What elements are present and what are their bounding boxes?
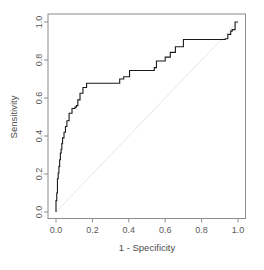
y-tick-label: 0.2 — [34, 168, 44, 181]
x-tick-label: 0.6 — [159, 225, 172, 235]
x-tick-label: 0.4 — [123, 225, 136, 235]
roc-curve-figure: 0.00.20.40.60.81.00.00.20.40.60.81.01 - … — [0, 0, 264, 270]
y-tick-label: 0.4 — [34, 130, 44, 143]
y-tick-label: 0.0 — [34, 206, 44, 219]
x-tick-label: 0.2 — [86, 225, 99, 235]
x-tick-label: 0.0 — [50, 225, 63, 235]
x-tick-label: 0.8 — [195, 225, 208, 235]
y-axis-title: Sensitivity — [8, 95, 19, 138]
y-tick-label: 0.8 — [34, 54, 44, 67]
y-tick-label: 0.6 — [34, 92, 44, 105]
roc-chart-canvas: 0.00.20.40.60.81.00.00.20.40.60.81.01 - … — [0, 0, 264, 270]
x-tick-label: 1.0 — [232, 225, 245, 235]
y-tick-label: 1.0 — [34, 16, 44, 29]
x-axis-title: 1 - Specificity — [119, 242, 176, 253]
